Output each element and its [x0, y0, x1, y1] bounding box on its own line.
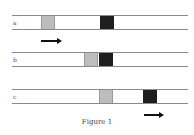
figure-caption: Figure 1	[0, 118, 194, 126]
gray-box-b	[84, 53, 98, 66]
track-row-c: c	[12, 89, 188, 104]
black-box-b	[99, 53, 113, 66]
right-arrow-icon-a	[41, 38, 62, 44]
gray-box-c	[99, 90, 113, 103]
row-label-a: a	[13, 19, 17, 26]
black-box-c	[143, 90, 157, 103]
gray-box-a	[41, 16, 55, 29]
track-row-a: a	[12, 15, 188, 30]
row-label-c: c	[13, 93, 16, 100]
black-box-a	[100, 16, 114, 29]
row-label-b: b	[13, 56, 17, 63]
track-row-b: b	[12, 52, 188, 67]
